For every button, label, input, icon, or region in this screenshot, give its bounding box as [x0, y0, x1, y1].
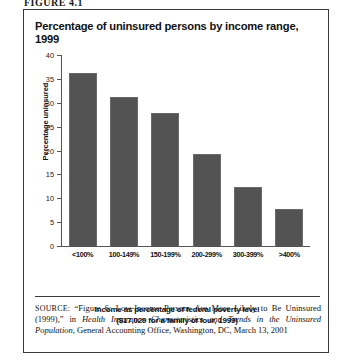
bar — [151, 113, 179, 247]
x-axis-tick-label: 150-199% — [145, 250, 186, 259]
x-axis-tick-label: 100-149% — [103, 250, 144, 259]
bar-series — [62, 55, 310, 247]
y-axis-tick-label: 5 — [50, 218, 54, 227]
bar — [110, 97, 138, 247]
y-axis-tick-label: 15 — [46, 170, 54, 179]
y-axis-tick-label: 35 — [46, 74, 54, 83]
bar — [275, 209, 303, 247]
bar-slot — [145, 55, 186, 247]
source-note-prefix: SOURCE: — [35, 304, 70, 313]
source-note-part2: , General Accounting Office, Washington,… — [73, 325, 288, 335]
x-axis-tick-label: <100% — [62, 250, 103, 259]
bar-slot — [269, 55, 310, 247]
bar-slot — [62, 55, 103, 247]
bar-slot — [227, 55, 268, 247]
axes: 4035302520151050 — [61, 55, 309, 246]
y-axis-tick-label: 10 — [46, 194, 54, 203]
y-axis-tick-label: 30 — [46, 98, 54, 107]
x-axis-tick-label: 300-399% — [227, 250, 268, 259]
source-note: SOURCE: “Figure 6: Low-Income Persons Ar… — [35, 303, 321, 337]
divider — [35, 296, 320, 297]
y-axis-tick-label: 25 — [46, 122, 54, 131]
y-axis-tick-label: 20 — [46, 146, 54, 155]
bar — [69, 73, 97, 247]
figure-label: FIGURE 4.1 — [24, 0, 83, 8]
y-axis-tick-label: 40 — [46, 51, 54, 60]
bar — [234, 187, 262, 247]
y-axis-tick-label: 0 — [50, 242, 54, 251]
bar — [193, 154, 221, 247]
x-axis-tick-labels: <100%100-149%150-199%200-299%300-399%>40… — [62, 250, 310, 259]
x-axis-tick-label: >400% — [269, 250, 310, 259]
bar-slot — [186, 55, 227, 247]
bar-slot — [103, 55, 144, 247]
figure-box: Percentage of uninsured persons by incom… — [23, 9, 329, 353]
x-axis-tick-label: 200-299% — [186, 250, 227, 259]
plot-area: Percentage uninsured 4035302520151050 <1… — [24, 43, 330, 268]
